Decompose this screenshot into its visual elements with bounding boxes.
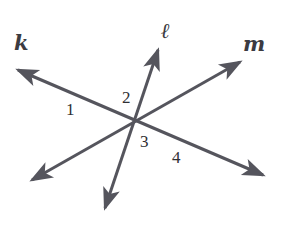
angle-label-2: 2 [122, 89, 131, 106]
angle-label-3: 3 [140, 133, 149, 150]
line-label-l: ℓ [161, 20, 170, 41]
angle-label-1: 1 [66, 101, 75, 118]
line-k-stroke [18, 70, 263, 175]
angle-label-4: 4 [172, 149, 181, 166]
line-label-k: k [14, 32, 29, 53]
line-l-stroke [105, 50, 158, 208]
line-label-m: m [243, 33, 265, 54]
line-m-stroke [32, 62, 240, 180]
lines-canvas [0, 0, 281, 227]
geometry-figure: k ℓ m 1 2 3 4 [0, 0, 281, 227]
